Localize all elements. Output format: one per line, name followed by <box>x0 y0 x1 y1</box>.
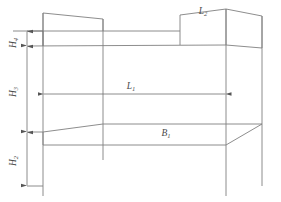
right-end-face <box>226 9 262 186</box>
vertical-posts <box>43 9 226 196</box>
label-l1: L1 <box>126 81 136 92</box>
ground-line <box>27 186 43 196</box>
diagram-canvas: H4 H3 H2 L1 L2 B1 <box>0 0 281 202</box>
left-raised-block <box>43 13 103 46</box>
label-h3: H3 <box>8 86 19 98</box>
label-l2: L2 <box>198 6 208 17</box>
label-h2: H2 <box>8 155 19 167</box>
label-h4: H4 <box>8 37 19 49</box>
label-b1: B1 <box>161 128 170 139</box>
base-plate <box>27 124 262 145</box>
upper-deck-slab <box>27 31 226 46</box>
dimension-diagram: H4 H3 H2 L1 L2 B1 <box>0 0 281 202</box>
